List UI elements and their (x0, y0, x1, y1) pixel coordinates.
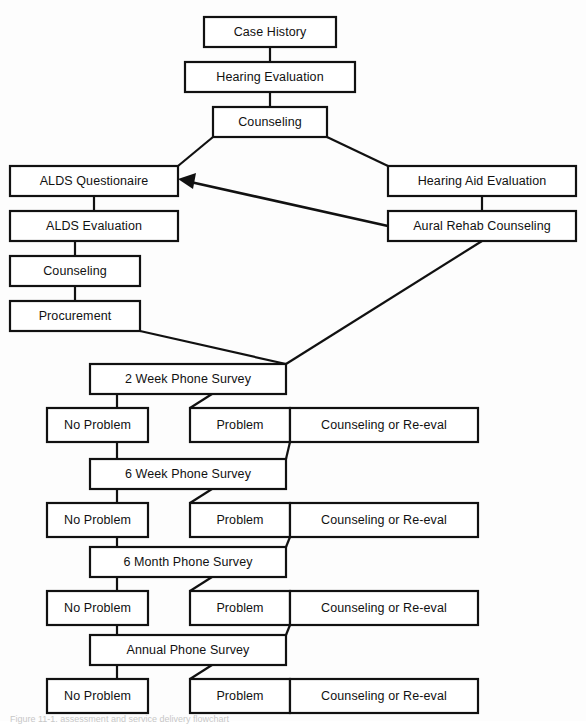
connector-counseling-to-alds-questionaire (178, 137, 213, 166)
node-box-aural-rehab-counseling[interactable] (388, 211, 576, 241)
flow-node-counseling-alds[interactable]: Counseling (10, 256, 140, 286)
flow-node-hearing-evaluation[interactable]: Hearing Evaluation (185, 62, 355, 92)
arrow-head-icon (178, 173, 196, 189)
flow-node-counseling-reeval-1[interactable]: Counseling or Re-eval (290, 408, 478, 442)
node-box-problem-2[interactable] (190, 503, 290, 537)
connector-counseling-reeval-2-to-survey-6month (286, 537, 290, 547)
node-box-counseling-reeval-1[interactable] (290, 408, 478, 442)
flow-node-counseling-reeval-3[interactable]: Counseling or Re-eval (290, 591, 478, 625)
flow-node-problem-4[interactable]: Problem (190, 679, 290, 713)
flow-node-case-history[interactable]: Case History (204, 17, 336, 47)
flow-node-procurement[interactable]: Procurement (10, 301, 140, 331)
connector-counseling-reeval-1-to-survey-6week (286, 442, 290, 459)
node-box-survey-2week[interactable] (90, 364, 286, 394)
flow-node-problem-1[interactable]: Problem (190, 408, 290, 442)
node-box-hearing-aid-evaluation[interactable] (388, 166, 576, 196)
node-box-counseling-reeval-2[interactable] (290, 503, 478, 537)
node-box-no-problem-1[interactable] (47, 408, 148, 442)
flow-node-survey-2week[interactable]: 2 Week Phone Survey (90, 364, 286, 394)
connector-aural-rehab-to-survey-2week (286, 241, 482, 364)
flow-node-no-problem-3[interactable]: No Problem (47, 591, 148, 625)
connector-survey-6month-to-problem-3 (190, 577, 212, 591)
node-box-counseling-reeval-4[interactable] (290, 679, 478, 713)
connector-survey-annual-to-problem-4 (190, 665, 212, 679)
flow-node-alds-questionaire[interactable]: ALDS Questionaire (10, 166, 178, 196)
flow-node-hearing-aid-evaluation[interactable]: Hearing Aid Evaluation (388, 166, 576, 196)
connector-survey-6week-to-problem-2 (190, 489, 212, 503)
flow-node-alds-evaluation[interactable]: ALDS Evaluation (10, 211, 178, 241)
node-box-case-history[interactable] (204, 17, 336, 47)
connector-survey-2week-to-problem-1 (190, 394, 212, 408)
flow-node-no-problem-1[interactable]: No Problem (47, 408, 148, 442)
node-box-hearing-evaluation[interactable] (185, 62, 355, 92)
flow-node-no-problem-4[interactable]: No Problem (47, 679, 148, 713)
node-box-problem-3[interactable] (190, 591, 290, 625)
flow-node-survey-6week[interactable]: 6 Week Phone Survey (90, 459, 286, 489)
flow-node-problem-3[interactable]: Problem (190, 591, 290, 625)
node-box-no-problem-3[interactable] (47, 591, 148, 625)
node-box-no-problem-2[interactable] (47, 503, 148, 537)
figure-caption: Figure 11-1. assessment and service deli… (10, 714, 229, 724)
node-box-alds-questionaire[interactable] (10, 166, 178, 196)
flow-node-survey-6month[interactable]: 6 Month Phone Survey (90, 547, 286, 577)
node-layer: Case HistoryHearing EvaluationCounseling… (10, 17, 576, 713)
arrow-connector-layer (178, 173, 388, 226)
connector-aural-rehab-to-alds-questionaire-arrow (186, 181, 388, 226)
node-box-counseling-alds[interactable] (10, 256, 140, 286)
connector-counseling-reeval-3-to-survey-annual (286, 625, 290, 635)
flow-node-counseling-reeval-2[interactable]: Counseling or Re-eval (290, 503, 478, 537)
node-box-survey-6month[interactable] (90, 547, 286, 577)
node-box-procurement[interactable] (10, 301, 140, 331)
flow-node-counseling-reeval-4[interactable]: Counseling or Re-eval (290, 679, 478, 713)
flow-node-aural-rehab-counseling[interactable]: Aural Rehab Counseling (388, 211, 576, 241)
node-box-no-problem-4[interactable] (47, 679, 148, 713)
flow-node-problem-2[interactable]: Problem (190, 503, 290, 537)
node-box-survey-6week[interactable] (90, 459, 286, 489)
flow-node-survey-annual[interactable]: Annual Phone Survey (90, 635, 286, 665)
node-box-counseling-top[interactable] (213, 107, 327, 137)
flow-node-no-problem-2[interactable]: No Problem (47, 503, 148, 537)
node-box-counseling-reeval-3[interactable] (290, 591, 478, 625)
flow-node-counseling-top[interactable]: Counseling (213, 107, 327, 137)
connector-counseling-to-hearing-aid-evaluation (327, 137, 388, 166)
node-box-survey-annual[interactable] (90, 635, 286, 665)
connector-procurement-to-survey-2week (140, 331, 286, 364)
node-box-problem-1[interactable] (190, 408, 290, 442)
node-box-alds-evaluation[interactable] (10, 211, 178, 241)
node-box-problem-4[interactable] (190, 679, 290, 713)
